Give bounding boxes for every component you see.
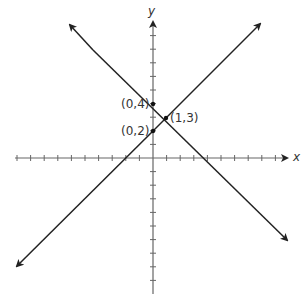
coordinate-plane: [0, 0, 306, 294]
line-y-eq-neg-x-plus-4-tail: [70, 25, 93, 50]
point-label-1-3: (1,3): [170, 111, 198, 125]
y-axis-label: y: [148, 4, 155, 18]
line-y-eq-x-plus-2-tail: [17, 131, 153, 266]
point-0-4: [151, 102, 155, 106]
line-y-eq-neg-x-plus-4: [93, 50, 287, 240]
point-0-2: [151, 129, 155, 133]
point-label-0-4: (0,4): [121, 97, 149, 111]
point-1-3: [164, 116, 168, 120]
x-axis-label: x: [293, 150, 300, 164]
x-axis: [15, 155, 287, 161]
point-label-0-2: (0,2): [121, 124, 149, 138]
